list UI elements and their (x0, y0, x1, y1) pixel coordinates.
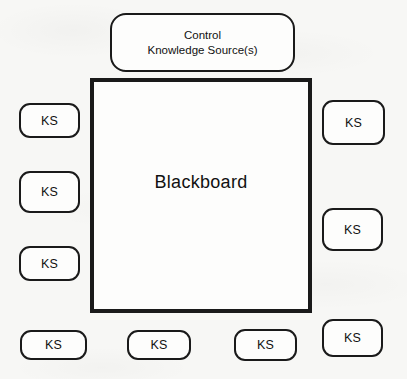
knowledge-source-bottom-4[interactable]: KS (322, 319, 383, 357)
control-knowledge-source-box[interactable]: Control Knowledge Source(s) (110, 13, 295, 72)
knowledge-source-bottom-1[interactable]: KS (20, 330, 87, 360)
control-label-line-1: Control (148, 28, 258, 43)
knowledge-source-bottom-2[interactable]: KS (127, 330, 191, 360)
knowledge-source-label: KS (344, 223, 361, 237)
knowledge-source-label: KS (257, 338, 274, 352)
knowledge-source-right-2[interactable]: KS (322, 208, 383, 251)
knowledge-source-label: KS (41, 185, 58, 199)
control-knowledge-source-label: Control Knowledge Source(s) (148, 28, 258, 58)
blackboard-label: Blackboard (154, 172, 247, 193)
control-label-line-2: Knowledge Source(s) (148, 43, 258, 58)
knowledge-source-label: KS (41, 114, 58, 128)
knowledge-source-label: KS (150, 338, 167, 352)
blackboard-architecture-diagram: Control Knowledge Source(s) Blackboard K… (0, 0, 407, 379)
knowledge-source-left-3[interactable]: KS (19, 246, 80, 281)
knowledge-source-label: KS (345, 116, 362, 130)
knowledge-source-left-2[interactable]: KS (19, 171, 80, 213)
knowledge-source-label: KS (45, 338, 62, 352)
knowledge-source-label: KS (344, 331, 361, 345)
knowledge-source-label: KS (41, 257, 58, 271)
knowledge-source-right-1[interactable]: KS (322, 100, 385, 145)
blackboard-box[interactable]: Blackboard (90, 78, 312, 313)
knowledge-source-bottom-3[interactable]: KS (234, 329, 297, 361)
knowledge-source-left-1[interactable]: KS (19, 103, 80, 138)
